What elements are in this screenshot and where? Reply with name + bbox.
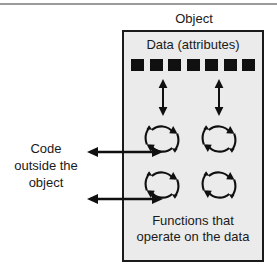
double-headed-horizontal-arrow-icon: [87, 145, 163, 159]
page-top-rule: [0, 3, 277, 5]
functions-label-line-1: Functions that: [124, 213, 262, 229]
code-outside-label-line-2: outside the: [2, 157, 90, 174]
functions-label-line-2: operate on the data: [124, 229, 262, 245]
object-title: Object: [122, 12, 266, 26]
double-headed-horizontal-arrow-icon: [87, 192, 163, 206]
code-outside-label-line-1: Code: [2, 140, 90, 157]
code-outside-label-line-3: object: [2, 174, 90, 191]
functions-label: Functions that operate on the data: [124, 213, 262, 245]
circular-arrow-icon: [200, 166, 238, 204]
double-headed-vertical-arrow-icon: [157, 79, 169, 116]
attribute-square: [242, 59, 255, 71]
attribute-square: [224, 59, 237, 71]
attribute-square: [168, 59, 181, 71]
diagram-canvas: Object Data (attributes): [0, 0, 277, 277]
data-attributes-label: Data (attributes): [124, 37, 262, 52]
circular-arrow-icon: [200, 120, 238, 158]
attribute-square: [187, 59, 200, 71]
attribute-squares-row: [131, 59, 255, 71]
code-outside-label: Code outside the object: [2, 140, 90, 191]
attribute-square: [150, 59, 163, 71]
attribute-square: [131, 59, 144, 71]
attribute-square: [205, 59, 218, 71]
double-headed-vertical-arrow-icon: [213, 79, 225, 116]
